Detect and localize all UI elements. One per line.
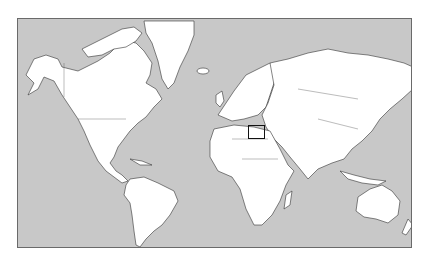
indonesia (340, 171, 386, 185)
highlight-box (248, 125, 265, 139)
map-land (18, 19, 412, 248)
madagascar (284, 191, 292, 209)
south-america (124, 177, 178, 247)
iceland (197, 68, 209, 74)
new-zealand (402, 219, 412, 235)
world-map (17, 18, 412, 248)
caribbean (130, 159, 152, 165)
united-kingdom (216, 91, 224, 107)
greenland (144, 21, 194, 89)
australia (356, 185, 400, 223)
